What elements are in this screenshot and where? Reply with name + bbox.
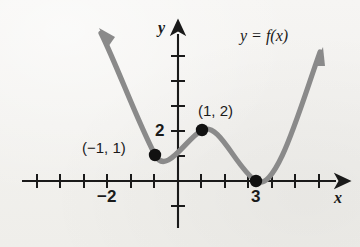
y-tick-label-2: 2 [155,122,164,139]
figure-canvas: y x y = f(x) 2 −2 3 (−1, 1) (1, 2) [0,0,360,247]
x-axis-label: x [334,190,342,206]
point-local-min-left [149,149,161,161]
y-axis-label: y [158,20,165,36]
point-x-intercept [250,175,262,187]
point-local-max [196,124,208,136]
point-label-local-min-left: (−1, 1) [82,140,126,155]
point-label-local-max: (1, 2) [198,103,233,118]
x-tick-label-neg2: −2 [97,188,116,205]
graph-svg [0,0,360,247]
function-label: y = f(x) [240,28,288,44]
x-tick-label-3: 3 [251,188,260,205]
